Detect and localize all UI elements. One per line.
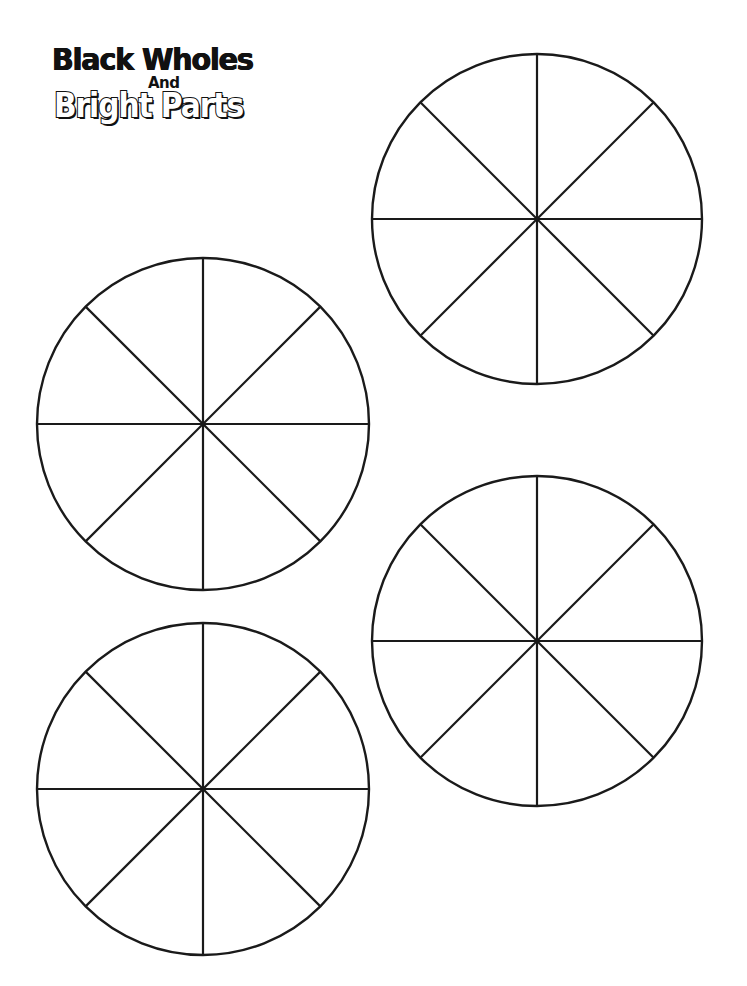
wheel-middle-left	[37, 258, 369, 590]
segment-wheels	[0, 0, 747, 986]
wheel-top-right	[372, 54, 702, 384]
wheel-lower-right	[372, 476, 702, 806]
wheel-bottom-left	[37, 623, 369, 955]
